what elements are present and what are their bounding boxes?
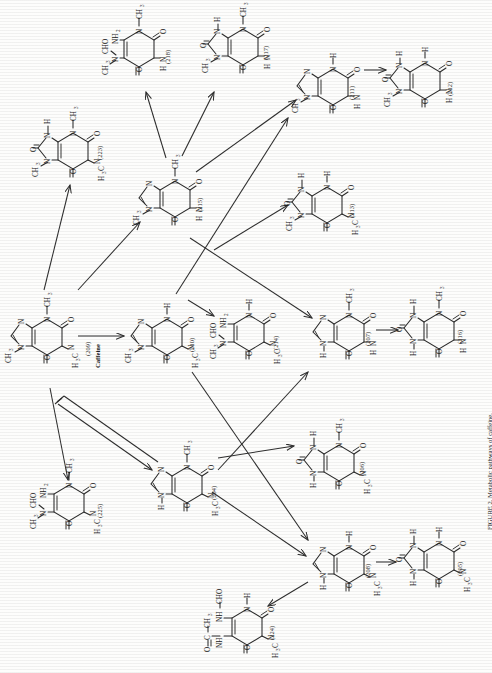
svg-text:O: O [94,131,102,136]
svg-text:3: 3 [387,92,393,95]
svg-text:CH: CH [172,159,180,169]
svg-text:O: O [172,217,180,222]
svg-text:3: 3 [75,358,81,361]
svg-text:CH: CH [240,7,248,17]
svg-text:H: H [274,359,282,364]
svg-text:N: N [246,312,254,318]
svg-text:N: N [184,464,192,470]
svg-text:N: N [370,572,378,578]
svg-text:H: H [94,529,102,534]
svg-text:3: 3 [195,358,201,361]
svg-text:O: O [164,355,172,360]
svg-text:N: N [410,338,418,344]
svg-text:CHO: CHO [30,493,38,508]
svg-text:H: H [264,64,272,69]
svg-text:N: N [320,314,328,320]
svg-text:O: O [90,483,98,488]
svg-text:3: 3 [187,440,193,443]
structure-210: O N H3C O N H N N CH3 [118,288,202,376]
svg-text:H: H [160,66,168,71]
svg-text:3: 3 [139,4,145,7]
svg-text:CHO: CHO [102,39,110,54]
svg-text:O: O [184,503,192,508]
svg-text:H: H [192,363,200,368]
structure-224: O N H3C O N H NH C O CH3 NH CHO [188,570,280,666]
svg-text:C: C [94,519,102,524]
svg-text:C: C [374,581,382,586]
svg-text:N: N [158,492,166,498]
svg-text:CH: CH [133,215,141,225]
svg-text:NH: NH [40,488,48,498]
svg-text:H: H [436,527,444,532]
svg-text:O: O [348,185,356,190]
structure-225: O N H3C O N CH3 N CH3 CHO NH2 [24,454,104,542]
svg-text:O: O [436,349,444,354]
structure-207: O NH O N CH3 NH N [300,284,384,372]
svg-text:3: 3 [8,348,14,351]
svg-text:O: O [346,351,354,356]
svg-text:3: 3 [439,286,445,289]
structure-212: O NH O N H N NH O CH3 [378,32,458,120]
svg-text:O: O [246,351,254,356]
svg-text:H: H [410,529,418,534]
svg-text:CH: CH [346,293,354,303]
label-224: (224) [268,626,275,640]
svg-text:CH: CH [125,353,133,363]
svg-text:H: H [330,53,338,58]
svg-text:3: 3 [128,348,134,351]
label-223: (223) [96,146,103,160]
svg-text:CH: CH [436,291,444,301]
svg-text:N: N [320,572,328,578]
structure-211: O NH O N H N N CH3 [286,40,366,126]
svg-text:N: N [336,442,344,448]
svg-text:O: O [66,521,74,526]
svg-text:3: 3 [277,354,283,357]
svg-text:CH: CH [336,423,344,433]
svg-text:C: C [364,479,372,484]
svg-text:CH: CH [30,519,38,529]
svg-text:N: N [112,56,120,62]
label-218: (218) [164,50,171,64]
svg-text:CH: CH [70,111,78,121]
svg-text:H: H [396,51,404,56]
label-206: (206) [358,462,365,476]
svg-text:C: C [352,220,360,225]
svg-text:N: N [40,510,48,516]
svg-text:CH: CH [204,618,212,628]
svg-text:N: N [436,540,444,546]
svg-text:H: H [246,299,254,304]
svg-text:O: O [244,645,252,650]
svg-text:3: 3 [289,216,295,219]
svg-text:3: 3 [215,506,221,509]
svg-text:H: H [310,483,318,488]
label-205: (205) [456,562,463,576]
structure-209-caffeine: O N H3C O N CH3 N N CH3 [0,286,82,376]
svg-text:O: O [268,607,276,612]
svg-text:3: 3 [207,613,213,616]
svg-text:N: N [244,606,252,612]
svg-text:N: N [66,482,74,488]
svg-text:N: N [422,60,430,66]
arrow-209-223 [44,185,70,290]
label-214: (214) [272,336,279,350]
svg-text:N: N [346,544,354,550]
svg-text:H: H [460,348,468,353]
svg-text:H: H [72,363,80,368]
svg-text:O: O [370,313,378,318]
label-215: (215) [196,198,203,212]
svg-text:O: O [422,99,430,104]
label-208: (208) [364,564,371,578]
svg-text:H: H [244,593,252,598]
svg-text:O: O [354,67,362,72]
svg-text:CH: CH [286,221,294,231]
svg-text:CH: CH [32,167,40,177]
svg-text:N: N [320,340,328,346]
svg-text:2: 2 [115,29,121,32]
svg-text:H: H [464,587,472,592]
svg-text:H: H [44,119,52,124]
svg-text:3: 3 [355,225,361,228]
svg-text:C: C [192,353,200,358]
svg-text:H: H [364,489,372,494]
svg-text:O: O [204,647,212,652]
svg-text:O: O [68,317,76,322]
